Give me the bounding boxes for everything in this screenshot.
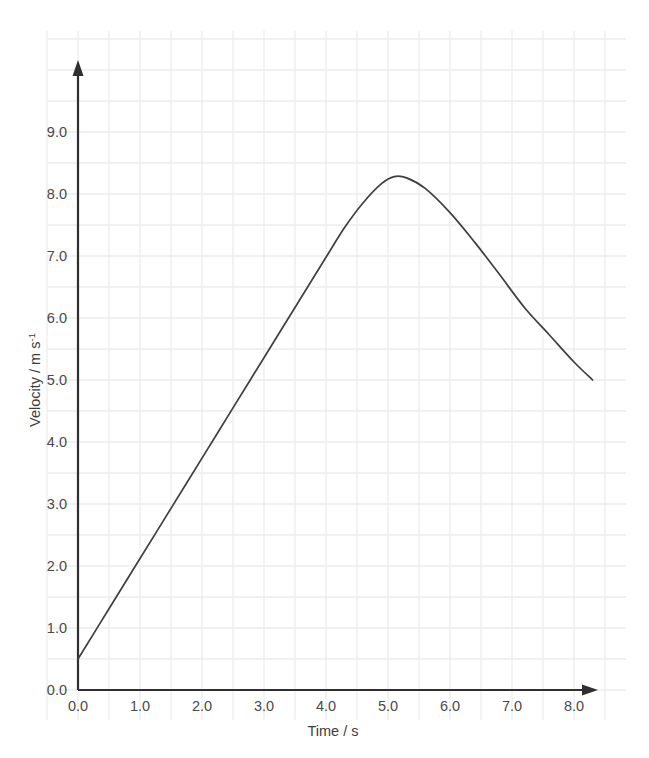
x-tick-label: 5.0: [378, 698, 398, 714]
chart-canvas: 0.01.02.03.04.05.06.07.08.0 0.01.02.03.0…: [0, 0, 649, 758]
y-tick-label: 5.0: [47, 372, 67, 388]
y-tick-label: 4.0: [47, 434, 67, 450]
y-axis-title: Velocity / m s-1: [26, 333, 43, 427]
x-tick-label: 4.0: [316, 698, 336, 714]
x-tick-labels: 0.01.02.03.04.05.06.07.08.0: [68, 698, 584, 714]
y-axis-title-group: Velocity / m s-1: [26, 333, 43, 427]
x-tick-label: 3.0: [254, 698, 274, 714]
x-tick-label: 6.0: [440, 698, 460, 714]
x-tick-label: 7.0: [502, 698, 522, 714]
y-tick-label: 8.0: [47, 186, 67, 202]
velocity-time-chart: 0.01.02.03.04.05.06.07.08.0 0.01.02.03.0…: [0, 0, 649, 758]
y-tick-label: 7.0: [47, 248, 67, 264]
y-tick-label: 3.0: [47, 496, 67, 512]
y-tick-label: 6.0: [47, 310, 67, 326]
y-tick-label: 1.0: [47, 620, 67, 636]
x-tick-label: 1.0: [130, 698, 150, 714]
y-tick-label: 2.0: [47, 558, 67, 574]
y-tick-label: 0.0: [47, 682, 67, 698]
x-tick-label: 8.0: [564, 698, 584, 714]
x-axis-title: Time / s: [307, 723, 358, 739]
x-tick-label: 2.0: [192, 698, 212, 714]
x-tick-label: 0.0: [68, 698, 88, 714]
chart-background: [0, 0, 649, 758]
y-tick-label: 9.0: [47, 124, 67, 140]
